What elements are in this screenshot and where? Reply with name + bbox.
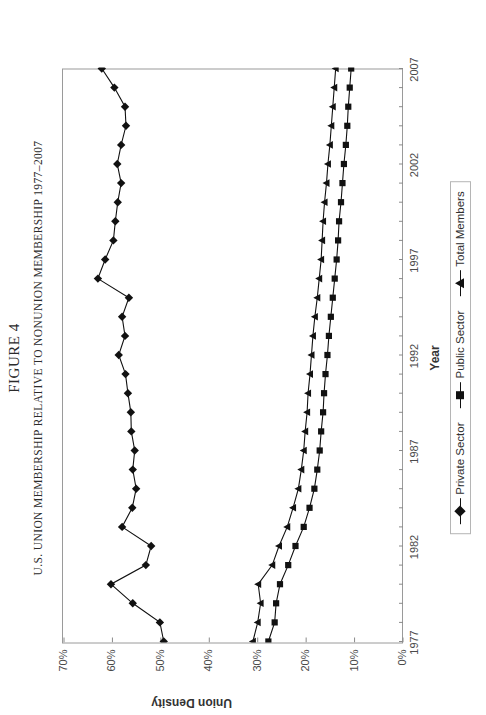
legend-item-public-sector[interactable]: Public Sector <box>454 310 466 408</box>
data-point-square <box>318 428 324 434</box>
chart-canvas <box>63 69 402 642</box>
legend-label: Total Members <box>454 191 466 266</box>
x-tick-label: 1992 <box>408 343 420 367</box>
data-point-square <box>277 581 283 587</box>
data-point-square <box>321 390 327 396</box>
y-tick-label: 50% <box>154 649 166 695</box>
data-point-square <box>311 485 317 491</box>
data-point-diamond <box>142 560 150 568</box>
data-point-diamond <box>132 484 140 492</box>
data-point-square <box>336 218 342 224</box>
rotated-figure-canvas: FIGURE 4 U.S. UNION MEMBERSHIP RELATIVE … <box>0 0 486 715</box>
data-point-square <box>292 542 298 548</box>
data-point-square <box>265 638 271 642</box>
data-point-square <box>345 103 351 109</box>
data-point-diamond <box>111 217 119 225</box>
data-point-square <box>320 409 326 415</box>
data-point-square <box>273 600 279 606</box>
legend-label: Public Sector <box>454 310 466 378</box>
data-point-diamond <box>121 369 129 377</box>
data-point-square <box>317 447 323 453</box>
data-point-square <box>285 562 291 568</box>
data-point-square <box>322 371 328 377</box>
x-tick-label: 1977 <box>408 630 420 654</box>
legend-label: Private Sector <box>454 422 466 494</box>
y-tick-label: 60% <box>105 649 117 695</box>
data-point-diamond <box>118 312 126 320</box>
figure-title-text: U.S. UNION MEMBERSHIP RELATIVE TO NONUNI… <box>32 140 44 575</box>
data-point-diamond <box>129 465 137 473</box>
legend-item-total-members[interactable]: Total Members <box>454 191 466 296</box>
series-line <box>98 68 164 641</box>
data-point-square <box>338 199 344 205</box>
data-point-diamond <box>121 331 129 339</box>
x-axis-title: Year <box>428 0 442 715</box>
data-point-diamond <box>128 503 136 511</box>
data-point-diamond <box>127 408 135 416</box>
data-point-diamond <box>147 541 155 549</box>
data-point-square <box>272 619 278 625</box>
data-point-diamond <box>124 389 132 397</box>
data-point-square <box>314 466 320 472</box>
x-tick-label: 1982 <box>408 534 420 558</box>
data-point-square <box>328 313 334 319</box>
data-point-square <box>343 141 349 147</box>
data-point-triangle <box>268 561 275 569</box>
data-point-diamond <box>115 350 123 358</box>
data-point-diamond <box>127 427 135 435</box>
x-tick-label: 1987 <box>408 439 420 463</box>
data-point-square <box>332 275 338 281</box>
data-point-diamond <box>131 446 139 454</box>
data-point-square <box>326 332 332 338</box>
data-point-triangle <box>254 580 261 588</box>
legend-marker-diamond-icon <box>455 498 465 524</box>
plot-area <box>62 68 403 643</box>
x-tick-label: 1997 <box>408 248 420 272</box>
data-point-square <box>339 180 345 186</box>
legend-item-private-sector[interactable]: Private Sector <box>454 422 466 524</box>
chart-legend: Private SectorPublic SectorTotal Members <box>450 181 471 534</box>
legend-marker-square-icon <box>455 382 465 408</box>
y-tick-label: 10% <box>348 649 360 695</box>
series-private-sector <box>94 67 168 642</box>
data-point-square <box>347 84 353 90</box>
data-point-square <box>330 294 336 300</box>
data-point-square <box>335 237 341 243</box>
x-tick-label: 2002 <box>408 152 420 176</box>
y-tick-label: 20% <box>299 649 311 695</box>
data-point-diamond <box>117 178 125 186</box>
series-line <box>253 68 336 641</box>
data-point-square <box>341 160 347 166</box>
data-point-diamond <box>98 67 106 72</box>
y-axis-title: Union Density <box>151 695 232 709</box>
legend-marker-triangle-icon <box>455 270 465 296</box>
data-point-square <box>334 256 340 262</box>
data-point-square <box>344 122 350 128</box>
figure-number: FIGURE 4 <box>6 0 23 715</box>
data-point-diamond <box>117 140 125 148</box>
data-point-diamond <box>101 255 109 263</box>
y-tick-label: 30% <box>251 649 263 695</box>
data-point-diamond <box>121 102 129 110</box>
x-tick-label: 2007 <box>408 57 420 81</box>
data-point-diamond <box>156 618 164 626</box>
figure-title: U.S. UNION MEMBERSHIP RELATIVE TO NONUNI… <box>29 0 46 715</box>
data-point-square <box>306 504 312 510</box>
data-point-triangle <box>249 637 256 642</box>
data-point-diamond <box>125 293 133 301</box>
chart-svg <box>63 67 404 642</box>
data-point-square <box>301 523 307 529</box>
data-point-diamond <box>122 121 130 129</box>
data-point-diamond <box>114 198 122 206</box>
data-point-diamond <box>113 159 121 167</box>
y-tick-label: 70% <box>57 649 69 695</box>
y-tick-label: 40% <box>202 649 214 695</box>
data-point-diamond <box>110 83 118 91</box>
data-point-diamond <box>109 236 117 244</box>
data-point-square <box>324 351 330 357</box>
y-tick-label: 0% <box>396 649 408 695</box>
data-point-square <box>348 67 354 71</box>
figure-page: FIGURE 4 U.S. UNION MEMBERSHIP RELATIVE … <box>0 0 486 715</box>
